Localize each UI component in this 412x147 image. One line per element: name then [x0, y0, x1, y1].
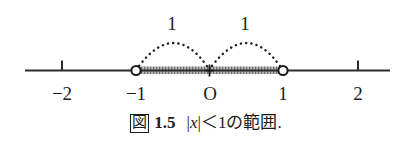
caption-figure-number: 1.5 — [154, 113, 175, 132]
axis-label-2: 2 — [353, 84, 363, 103]
caption-relation: ＜ — [201, 113, 218, 132]
caption-figure-word: 図 — [130, 114, 149, 133]
figure-number-line: 1 1 −2 −1 O 1 2 図1.5|x|＜1の範囲. — [0, 0, 412, 147]
caption-variable: x — [190, 113, 198, 132]
axis-label-origin: O — [203, 84, 217, 103]
caption-suffix: の範囲. — [226, 113, 281, 132]
axis-label--2: −2 — [52, 84, 72, 103]
open-endpoint-left — [131, 66, 140, 75]
arc-right-dotted — [212, 43, 280, 66]
arc-left-dotted — [139, 43, 207, 66]
open-endpoint-right — [278, 66, 287, 75]
figure-caption: 図1.5|x|＜1の範囲. — [0, 113, 412, 133]
arc-label-right: 1 — [240, 14, 250, 33]
axis-label-1: 1 — [278, 84, 288, 103]
caption-body: |x|＜1の範囲. — [187, 113, 282, 132]
arc-label-left: 1 — [167, 14, 177, 33]
axis-label--1: −1 — [126, 84, 146, 103]
